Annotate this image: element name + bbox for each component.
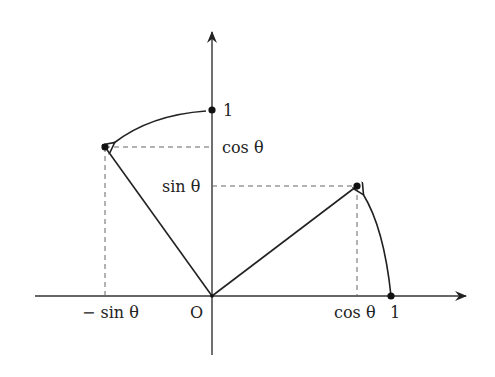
projection-lines	[105, 147, 357, 296]
point-unit-x	[387, 292, 394, 299]
vectors	[105, 147, 357, 296]
labels: 1 cos θ sin θ O − sin θ cos θ 1	[82, 101, 400, 322]
label-origin: O	[190, 303, 203, 322]
label-sin-y: sin θ	[162, 177, 200, 196]
arc-arrow-y-rotation	[114, 111, 206, 143]
label-neg-sin-x: − sin θ	[82, 303, 139, 322]
label-y-one: 1	[223, 101, 233, 120]
label-x-one: 1	[390, 303, 400, 322]
vector-rotated-x	[212, 186, 357, 296]
vector-rotated-y	[105, 147, 212, 296]
point-unit-y	[208, 106, 215, 113]
rotation-diagram: 1 cos θ sin θ O − sin θ cos θ 1	[0, 0, 495, 377]
origin-point	[210, 294, 214, 298]
label-cos-y: cos θ	[222, 138, 264, 157]
label-cos-x: cos θ	[334, 303, 376, 322]
point-rotated-x	[353, 182, 360, 189]
arc-arrow-x-rotation	[363, 194, 391, 296]
point-rotated-y	[101, 143, 108, 150]
